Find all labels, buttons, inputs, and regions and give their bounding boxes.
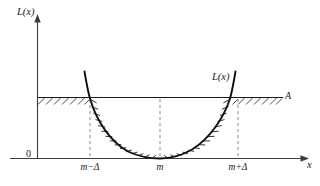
diagram-svg: [0, 0, 320, 186]
figure-canvas: L(x) L(x) A 0 x m−Δ m m+Δ: [0, 0, 320, 186]
level-line-label-a: A: [285, 91, 291, 101]
x-axis-label: x: [307, 160, 312, 171]
x-tick-label-m-minus-delta: m−Δ: [81, 163, 100, 173]
origin-label: 0: [26, 149, 31, 159]
y-axis-arrowhead: [34, 14, 40, 23]
dashed-guides-group: [90, 99, 238, 158]
curve-label: L(x): [212, 72, 230, 83]
loss-curve: [85, 72, 236, 159]
x-tick-label-m-plus-delta: m+Δ: [229, 163, 248, 173]
axes-group: [10, 14, 309, 162]
y-axis-label: L(x): [17, 7, 35, 18]
x-tick-label-m: m: [157, 163, 164, 173]
